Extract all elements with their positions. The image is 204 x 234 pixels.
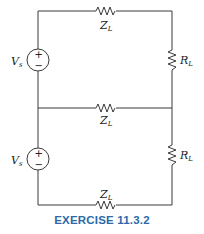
label-vs-bottom: Vs — [11, 154, 23, 168]
circuit-diagram: + − + − Vs Vs ZL ZL ZL RL RL — [0, 0, 204, 234]
zl-bottom-resistor — [96, 201, 115, 209]
source-top-plus: + — [35, 49, 43, 60]
source-top-minus: − — [35, 60, 43, 71]
label-rl-bottom: RL — [179, 149, 193, 163]
source-bottom-minus: − — [35, 159, 43, 170]
source-bottom-plus: + — [35, 148, 43, 159]
label-zl-middle: ZL — [99, 114, 113, 128]
label-zl-top: ZL — [99, 19, 113, 33]
label-rl-top: RL — [179, 54, 193, 68]
rl-bottom-resistor — [168, 145, 176, 165]
figure-caption: EXERCISE 11.3.2 — [0, 214, 204, 226]
label-zl-bottom: ZL — [99, 188, 113, 202]
label-vs-top: Vs — [11, 55, 23, 69]
zl-top-resistor — [96, 7, 115, 15]
rl-top-resistor — [168, 50, 176, 70]
zl-middle-resistor — [96, 104, 115, 112]
